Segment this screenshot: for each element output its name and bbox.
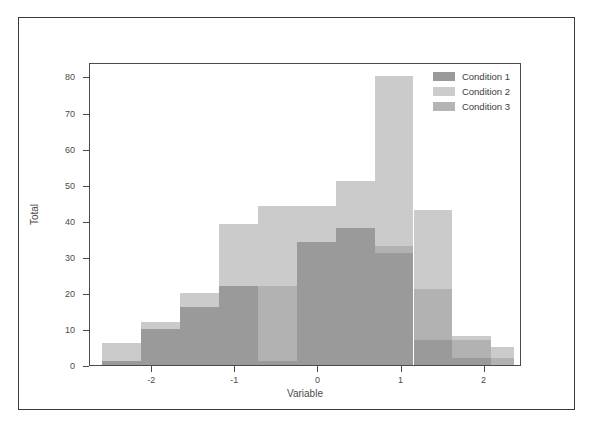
y-axis-tick-label: 60 [65, 145, 75, 155]
legend-item-label: Condition 1 [462, 71, 510, 82]
x-axis-tick-label: 0 [315, 375, 320, 385]
legend-item: Condition 3 [433, 101, 510, 112]
x-axis-tick-mark [234, 366, 235, 372]
bar-segment-inner [297, 242, 336, 365]
y-axis: 01020304050607080 [0, 63, 89, 366]
y-axis-tick-label: 70 [65, 109, 75, 119]
x-axis-tick-mark [401, 366, 402, 372]
x-axis-tick-mark [151, 366, 152, 372]
legend-swatch-icon [433, 87, 455, 96]
bar-segment-inner [258, 361, 297, 365]
bar-segment-inner [336, 228, 375, 365]
x-axis-tick-mark [317, 366, 318, 372]
bar-segment-mid [258, 286, 297, 365]
plot-panel: Condition 1Condition 2Condition 3 [89, 63, 521, 366]
bar-segment-inner [452, 358, 491, 365]
bar-segment-mid [491, 358, 513, 365]
x-axis-tick-mark [484, 366, 485, 372]
legend-item: Condition 1 [433, 71, 510, 82]
legend: Condition 1Condition 2Condition 3 [433, 71, 510, 112]
bar-segment-inner [375, 253, 414, 365]
x-axis-tick-label: -2 [147, 375, 155, 385]
legend-item: Condition 2 [433, 86, 510, 97]
y-axis-tick-label: 30 [65, 253, 75, 263]
bar-segment-inner [141, 329, 180, 365]
y-axis-tick-label: 40 [65, 217, 75, 227]
bar-segment-inner [180, 307, 219, 365]
y-axis-tick-label: 10 [65, 325, 75, 335]
bar-segment-inner [219, 286, 258, 365]
bar-segment-inner [414, 340, 453, 365]
x-axis-title: Variable [89, 388, 521, 399]
bar-segment-inner [102, 361, 141, 365]
y-axis-tick-label: 0 [70, 361, 75, 371]
x-axis-tick-label: -1 [230, 375, 238, 385]
y-axis-tick-label: 50 [65, 181, 75, 191]
x-axis-tick-label: 1 [398, 375, 403, 385]
y-axis-tick-label: 80 [65, 72, 75, 82]
x-axis-tick-label: 2 [481, 375, 486, 385]
legend-swatch-icon [433, 102, 455, 111]
legend-item-label: Condition 2 [462, 86, 510, 97]
histogram-figure: Total 01020304050607080 Condition 1Condi… [0, 0, 593, 427]
y-axis-tick-label: 20 [65, 289, 75, 299]
legend-swatch-icon [433, 72, 455, 81]
legend-item-label: Condition 3 [462, 101, 510, 112]
